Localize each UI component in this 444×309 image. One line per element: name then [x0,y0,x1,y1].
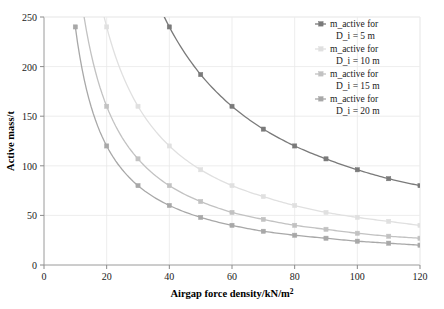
chart-canvas: 020406080100120 050100150200250 m_active… [0,0,444,309]
y-tick-label: 50 [27,210,37,221]
legend-label-line1: m_active for [330,69,379,79]
data-point-marker [418,236,422,240]
chart-legend: m_active forD_i = 5 mm_active forD_i = 1… [315,19,380,116]
legend-marker [319,97,323,101]
x-tick-label: 60 [227,271,237,282]
data-point-marker [105,144,109,148]
legend-entry-2: m_active forD_i = 15 m [315,69,380,91]
data-point-marker [324,210,328,214]
y-tick-label: 200 [22,62,37,73]
data-point-marker [136,157,140,161]
data-point-marker [261,217,265,221]
chart-container: 020406080100120 050100150200250 m_active… [0,0,444,309]
x-tick-label: 0 [42,271,47,282]
data-point-marker [387,241,391,245]
legend-marker [319,72,323,76]
data-point-marker [387,177,391,181]
data-point-marker [136,104,140,108]
legend-entry-1: m_active forD_i = 10 m [315,44,380,66]
legend-label-line2: D_i = 20 m [336,106,380,116]
data-point-marker [324,236,328,240]
legend-label-line2: D_i = 15 m [336,81,380,91]
data-point-marker [293,233,297,237]
data-point-marker [355,239,359,243]
data-point-marker [355,168,359,172]
x-tick-label: 80 [290,271,300,282]
data-point-marker [387,234,391,238]
data-point-marker [199,168,203,172]
axis-ticks [40,17,420,269]
grid-lines [44,17,420,265]
data-point-marker [199,215,203,219]
data-point-marker [73,25,77,29]
data-point-marker [167,203,171,207]
x-tick-label: 100 [350,271,365,282]
data-point-marker [355,231,359,235]
legend-marker [319,47,323,51]
data-point-marker [293,223,297,227]
legend-label-line1: m_active for [330,19,379,29]
y-tick-labels: 050100150200250 [22,12,37,271]
y-tick-label: 150 [22,111,37,122]
data-point-marker [324,157,328,161]
legend-marker [319,22,323,26]
legend-label-line2: D_i = 5 m [336,31,375,41]
data-point-marker [355,215,359,219]
data-point-marker [230,184,234,188]
y-axis-title: Active mass/t [5,111,16,171]
x-tick-label: 120 [413,271,428,282]
data-point-marker [105,104,109,108]
legend-entry-3: m_active forD_i = 20 m [315,94,380,116]
data-point-marker [230,104,234,108]
data-point-marker [261,229,265,233]
data-point-marker [167,25,171,29]
data-point-marker [418,184,422,188]
data-point-marker [324,227,328,231]
data-point-marker [293,144,297,148]
data-point-marker [261,194,265,198]
legend-label-line1: m_active for [330,44,379,54]
data-point-marker [387,219,391,223]
legend-label-line1: m_active for [330,94,379,104]
data-point-marker [418,243,422,247]
data-point-marker [230,223,234,227]
x-tick-labels: 020406080100120 [42,271,428,282]
data-point-marker [261,127,265,131]
x-axis-title: Airgap force density/kN/m2 [170,287,293,300]
y-tick-label: 250 [22,12,37,23]
legend-entry-0: m_active forD_i = 5 m [315,19,379,41]
data-point-marker [136,184,140,188]
data-point-marker [199,72,203,76]
data-point-marker [293,203,297,207]
data-point-marker [199,199,203,203]
legend-label-line2: D_i = 10 m [336,56,380,66]
data-point-marker [418,223,422,227]
x-tick-label: 40 [164,271,174,282]
y-tick-label: 0 [32,260,37,271]
data-point-marker [105,25,109,29]
x-tick-label: 20 [102,271,112,282]
data-point-marker [167,144,171,148]
data-point-marker [167,184,171,188]
data-point-marker [230,210,234,214]
y-tick-label: 100 [22,161,37,172]
